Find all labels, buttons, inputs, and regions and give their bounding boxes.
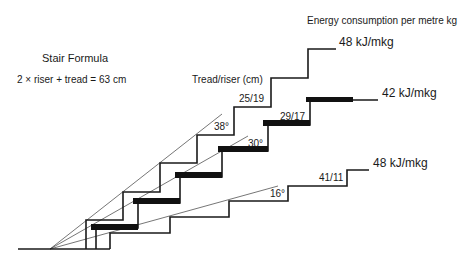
tread-riser-optimal: 29/17: [280, 112, 305, 122]
stair-diagram: [0, 0, 469, 266]
stair-formula: 2 × riser + tread = 63 cm: [17, 75, 126, 85]
tread-riser-shallow: 41/11: [319, 173, 343, 183]
tread-riser-label: Tread/riser (cm): [192, 75, 263, 85]
bold-tread: [175, 172, 222, 178]
energy-steep: 48 kJ/mkg: [339, 36, 394, 48]
angle-label-38: 38°: [214, 122, 229, 132]
diagram-title: Stair Formula: [42, 53, 108, 64]
bold-tread: [133, 198, 180, 204]
angle-label-16: 16°: [270, 189, 285, 199]
bold-tread: [306, 97, 353, 102]
tread-riser-steep: 25/19: [239, 94, 264, 104]
angle-label-30: 30°: [248, 139, 263, 149]
energy-heading: Energy consumption per metre kg: [307, 16, 457, 26]
angle-line-16: [50, 186, 278, 249]
energy-optimal: 42 kJ/mkg: [382, 87, 437, 99]
bold-tread: [91, 224, 138, 230]
energy-shallow: 48 kJ/mkg: [373, 157, 428, 169]
